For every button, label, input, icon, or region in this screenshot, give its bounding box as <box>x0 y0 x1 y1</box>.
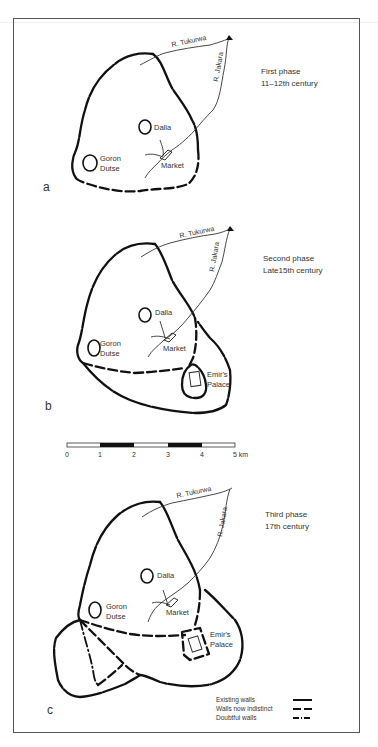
palace-wall <box>182 628 209 660</box>
river-tributary <box>145 140 163 157</box>
label-dutse: Dutse <box>100 164 120 173</box>
label-dalla: Dalla <box>157 571 175 580</box>
label-emirs: Emir's <box>210 630 231 639</box>
legend-label-existing: Existing walls <box>216 696 256 704</box>
phase-period: 11–12th century <box>261 79 318 88</box>
river-tributary <box>151 321 170 339</box>
palace-building-icon <box>188 636 202 652</box>
scale-tick: 0 <box>65 451 69 458</box>
phase-title: Third phase <box>265 510 308 519</box>
scale-tick: 4 <box>200 451 204 458</box>
scale-bar: 0 1 2 3 4 5 km <box>65 443 248 458</box>
panel-letter: a <box>43 180 50 194</box>
legend: Existing walls Walls now indistinct Doub… <box>216 696 312 721</box>
scale-tick: 3 <box>166 451 170 458</box>
goron-dutse-hill-icon <box>83 155 97 171</box>
wall-indistinct <box>195 590 200 625</box>
panel-a: R. Tukurwa R. Jakara Dalla Goron Dutse M… <box>43 34 318 194</box>
label-goron: Goron <box>100 154 121 163</box>
river-arrow-icon <box>227 226 234 231</box>
label-palace: Palace <box>207 380 230 389</box>
phase-title: Second phase <box>263 254 315 263</box>
panel-letter: c <box>47 703 53 717</box>
label-market: Market <box>163 344 187 353</box>
label-emirs: Emir's <box>207 370 228 379</box>
scale-tick: 2 <box>132 451 136 458</box>
wall-existing <box>153 54 198 150</box>
wall-indistinct <box>80 620 185 636</box>
label-dalla: Dalla <box>155 308 173 317</box>
label-palace: Palace <box>210 640 233 649</box>
panel-letter: b <box>45 399 52 413</box>
panel-b: R. Tukurwa R. Jakara Dalla Goron Dutse M… <box>45 225 323 413</box>
market-icon <box>166 598 178 607</box>
label-dutse: Dutse <box>106 612 126 621</box>
label-goron: Goron <box>106 602 127 611</box>
label-dalla: Dalla <box>154 123 172 132</box>
river-arrow-icon <box>226 35 233 40</box>
dalla-hill-icon <box>141 569 153 583</box>
dalla-hill-icon <box>139 308 151 322</box>
phase-period: Late15th century <box>263 266 323 275</box>
city-walls-figure: R. Tukurwa R. Jakara Dalla Goron Dutse M… <box>0 0 378 747</box>
wall-indistinct <box>189 318 196 366</box>
wall-existing <box>83 322 230 413</box>
goron-dutse-hill-icon <box>88 340 100 356</box>
wall-indistinct <box>83 363 185 373</box>
phase-title: First phase <box>261 67 301 76</box>
legend-label-doubtful: Doubtful walls <box>216 714 257 721</box>
label-river-tukurwa: R. Tukurwa <box>176 485 212 499</box>
palace-wall <box>182 364 206 398</box>
scale-tick: 5 km <box>233 451 248 458</box>
panel-c: R. Tukurwa R. Jakara Dalla Goron Dutse M… <box>47 485 309 717</box>
label-goron: Goron <box>100 339 121 348</box>
label-river-jakara: R. Jakara <box>216 506 228 537</box>
wall-existing <box>155 244 195 318</box>
dalla-hill-icon <box>139 120 151 134</box>
label-market: Market <box>166 608 190 617</box>
palace-building-icon <box>189 371 201 386</box>
goron-dutse-hill-icon <box>89 602 101 618</box>
label-dutse: Dutse <box>100 349 120 358</box>
label-river-jakara: R. Jakara <box>208 241 220 272</box>
label-market: Market <box>161 161 185 170</box>
phase-period: 17th century <box>265 522 309 531</box>
wall-indistinct <box>98 665 122 685</box>
legend-label-indistinct: Walls now indistinct <box>216 705 273 712</box>
scale-tick: 1 <box>98 451 102 458</box>
